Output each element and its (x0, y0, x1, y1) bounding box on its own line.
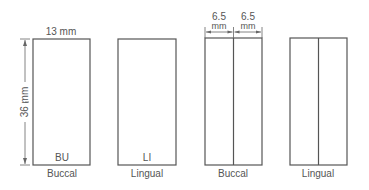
panel-buccal-split: 6.5 mm 6.5 mm Buccal (205, 11, 262, 179)
arrow-down-icon (23, 158, 27, 164)
arrow-right-icon (228, 31, 233, 34)
width-label: 13 mm (46, 26, 77, 37)
arrow-left-icon (206, 31, 211, 34)
inner-label: LI (143, 152, 151, 163)
dental-film-diagram: 13 mm 36 mm BU Buccal LI Lingual (0, 0, 369, 190)
caption: Buccal (47, 168, 77, 179)
half-width-unit-2: mm (241, 21, 256, 31)
lingual-rectangle (118, 39, 176, 165)
panel-lingual-split: Lingual (290, 38, 347, 179)
arrow-left-icon (235, 31, 240, 34)
arrow-up-icon (23, 40, 27, 46)
half-width-unit-1: mm (212, 21, 227, 31)
panel-buccal-single: 13 mm 36 mm BU Buccal (19, 26, 90, 179)
height-label: 36 mm (19, 87, 30, 118)
arrow-right-icon (256, 31, 261, 34)
caption: Lingual (131, 168, 163, 179)
height-dimension: 36 mm (19, 39, 30, 165)
panel-lingual-single: LI Lingual (118, 39, 176, 179)
inner-label: BU (55, 152, 69, 163)
caption: Lingual (302, 168, 334, 179)
buccal-rectangle (33, 39, 90, 165)
caption: Buccal (218, 168, 248, 179)
